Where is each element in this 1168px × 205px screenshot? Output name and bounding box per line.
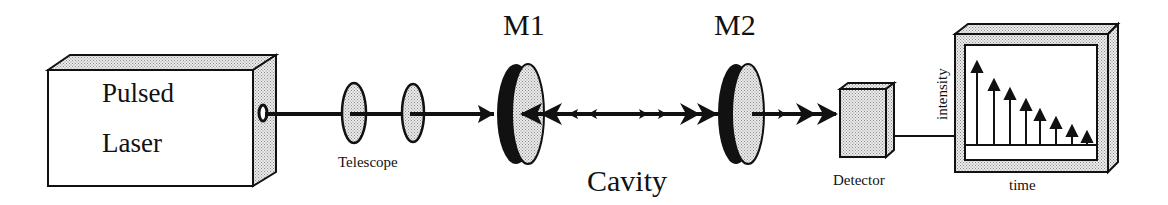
detector-label: Detector [833, 172, 885, 189]
telescope-lens-1 [342, 83, 372, 143]
telescope-lens-2 [402, 84, 430, 142]
beam-input [265, 105, 494, 123]
time-axis-label: time [1009, 177, 1036, 194]
laser-label-line2: Laser [102, 128, 162, 159]
mirror-m2-label: M2 [714, 8, 756, 42]
intensity-axis-label: intensity [934, 68, 951, 120]
cavity-beam [520, 103, 718, 125]
mirror-m1-label: M1 [503, 8, 545, 42]
detector-box [840, 83, 894, 157]
laser-label-line1: Pulsed [102, 78, 174, 109]
crds-diagram: Pulsed Laser Telescope M1 M2 Cavity Dete… [0, 0, 1168, 205]
oscilloscope [955, 24, 1118, 172]
beam-output [752, 103, 838, 125]
cavity-label: Cavity [587, 164, 667, 198]
pulsed-laser-box [48, 55, 276, 186]
telescope-label: Telescope [338, 154, 398, 171]
